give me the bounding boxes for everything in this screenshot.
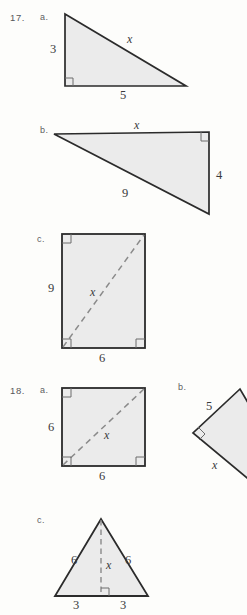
triangle-17a-shape bbox=[65, 14, 186, 86]
label-18c-left-side: 6 bbox=[71, 553, 77, 568]
figure-18c bbox=[55, 519, 148, 596]
triangle-18b-shape bbox=[193, 389, 247, 482]
part-label-18c: c. bbox=[37, 515, 45, 525]
triangle-17b-shape bbox=[54, 132, 209, 214]
part-label-17a: a. bbox=[40, 12, 48, 22]
label-17b-hypotenuse: 9 bbox=[122, 186, 128, 201]
figure-18b bbox=[193, 389, 247, 482]
figure-18a bbox=[62, 388, 145, 466]
label-18b-upper-leg: 5 bbox=[206, 399, 212, 414]
label-17b-right: 4 bbox=[216, 168, 222, 183]
part-label-18b: b. bbox=[178, 382, 186, 392]
figure-page: 17. a. b. c. 18. a. b. c. 3 5 x x 4 9 9 … bbox=[0, 0, 247, 615]
label-18a-width: 6 bbox=[99, 469, 105, 484]
label-18b-lower-leg: x bbox=[212, 458, 217, 473]
part-label-17b: b. bbox=[40, 125, 48, 135]
label-17c-height: 9 bbox=[48, 281, 54, 296]
label-17a-hypotenuse: x bbox=[127, 32, 132, 47]
label-18c-base-left: 3 bbox=[73, 598, 79, 613]
problem-number-18: 18. bbox=[10, 385, 25, 396]
label-17a-leg-vertical: 3 bbox=[50, 42, 56, 57]
label-17c-diagonal: x bbox=[90, 285, 95, 300]
label-18a-diagonal: x bbox=[104, 428, 109, 443]
problem-number-17: 17. bbox=[10, 12, 25, 23]
label-18c-base-right: 3 bbox=[120, 598, 126, 613]
label-17b-top: x bbox=[134, 118, 139, 133]
part-label-18a: a. bbox=[40, 385, 48, 395]
label-17c-width: 6 bbox=[99, 351, 105, 366]
figure-17b bbox=[54, 132, 209, 214]
figure-17c bbox=[62, 234, 145, 348]
part-label-17c: c. bbox=[37, 234, 45, 244]
label-17a-leg-horizontal: 5 bbox=[120, 88, 126, 103]
label-18c-right-side: 6 bbox=[125, 553, 131, 568]
label-18c-altitude: x bbox=[106, 558, 111, 573]
figure-17a bbox=[65, 14, 186, 86]
label-18a-height: 6 bbox=[48, 420, 54, 435]
